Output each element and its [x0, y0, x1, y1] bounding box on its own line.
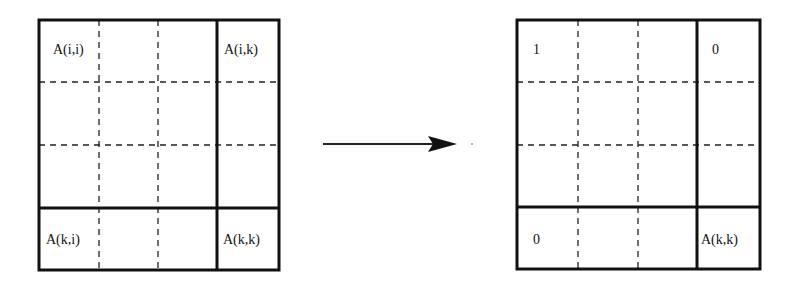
right-label-akk: A(k,k) [701, 232, 738, 248]
right-matrix: 1 0 0 A(k,k) [517, 20, 760, 269]
right-label-one: 1 [533, 42, 540, 57]
left-label-aii: A(i,i) [53, 42, 84, 58]
right-label-zero-top: 0 [712, 42, 719, 57]
left-label-aik: A(i,k) [224, 42, 258, 58]
left-label-akk: A(k,k) [223, 232, 260, 248]
left-label-aki: A(k,i) [46, 232, 80, 248]
transform-arrow [323, 136, 473, 152]
stray-dot [471, 143, 473, 145]
right-label-zero-bottom: 0 [533, 232, 540, 247]
left-matrix: A(i,i) A(i,k) A(k,i) A(k,k) [39, 20, 279, 270]
diagram-canvas: A(i,i) A(i,k) A(k,i) A(k,k) 1 0 0 A(k,k) [0, 0, 796, 286]
